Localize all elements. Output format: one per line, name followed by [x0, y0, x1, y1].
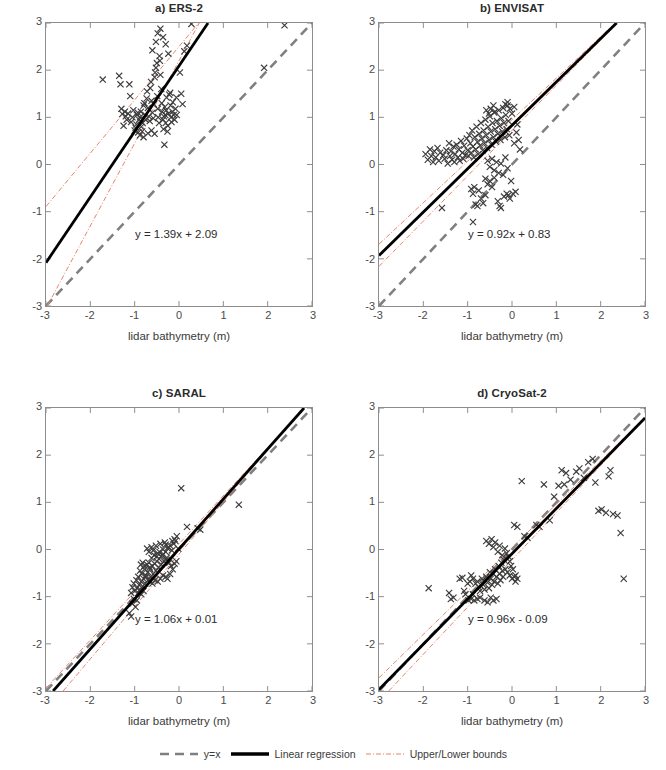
data-point [160, 34, 166, 40]
x-tick-label: 1 [545, 695, 569, 706]
x-tick-label: 1 [212, 695, 236, 706]
data-point [426, 585, 432, 591]
scatter-plot-svg [379, 408, 645, 691]
data-point [147, 85, 153, 91]
data-point [470, 219, 476, 225]
x-axis-label: lidar bathymetry (m) [378, 715, 646, 727]
data-point [512, 189, 518, 195]
regression-equation: y = 0.96x - 0.09 [468, 613, 548, 625]
panel-title: a) ERS-2 [45, 2, 313, 14]
y-tick-label: 1 [20, 111, 42, 122]
data-point [100, 77, 106, 83]
data-point [502, 154, 508, 160]
data-point [498, 160, 504, 166]
legend-swatch-dashed-icon [159, 748, 199, 760]
y-tick-label: 0 [353, 544, 375, 555]
regression-line [46, 23, 208, 263]
x-tick-label: -1 [122, 695, 146, 706]
data-point [618, 530, 624, 536]
y-tick-label: 3 [20, 16, 42, 27]
y-tick-label: 2 [353, 64, 375, 75]
x-tick-label: 0 [167, 695, 191, 706]
regression-line [53, 408, 304, 691]
data-point [450, 595, 456, 601]
y-tick-labels: 3210-1-2-3 [349, 407, 375, 692]
upper-bound-line [379, 417, 645, 677]
y-tick-label: -2 [353, 254, 375, 265]
data-point [481, 587, 487, 593]
data-point [178, 91, 184, 97]
legend-item: y=x [159, 748, 221, 760]
y-tick-label: 1 [353, 111, 375, 122]
scatter-plot-svg [46, 408, 312, 691]
x-tick-label: 3 [301, 695, 325, 706]
data-point [127, 93, 133, 99]
data-point [184, 43, 190, 49]
data-point [236, 502, 242, 508]
y-tick-labels: 3210-1-2-3 [16, 407, 42, 692]
y-tick-label: 3 [353, 16, 375, 27]
scatter-plot-svg [46, 23, 312, 306]
data-point [148, 79, 154, 85]
x-tick-label: -1 [455, 310, 479, 321]
x-tick-labels: -3-2-10123 [378, 310, 646, 328]
x-tick-label: -3 [366, 310, 390, 321]
x-tick-label: 2 [589, 310, 613, 321]
data-point [483, 107, 489, 113]
y-tick-label: 0 [20, 159, 42, 170]
data-point [157, 58, 163, 64]
data-point [281, 23, 287, 28]
data-point [478, 120, 484, 126]
x-axis-label: lidar bathymetry (m) [45, 330, 313, 342]
figure-legend: y=xLinear regressionUpper/Lower bounds [0, 742, 666, 766]
data-point [541, 481, 547, 487]
y-tick-label: 2 [20, 449, 42, 460]
data-point [170, 99, 176, 105]
data-point [126, 81, 132, 87]
data-point [603, 510, 609, 516]
data-point [512, 578, 518, 584]
data-point [498, 205, 504, 211]
data-point [606, 473, 612, 479]
data-point [590, 456, 596, 462]
regression-line [379, 418, 645, 690]
y-tick-label: 0 [20, 544, 42, 555]
x-tick-label: -3 [33, 310, 57, 321]
x-tick-label: 1 [212, 310, 236, 321]
x-axis-label: lidar bathymetry (m) [378, 330, 646, 342]
data-point [610, 511, 616, 517]
data-point [508, 178, 514, 184]
data-point [585, 459, 591, 465]
data-point [446, 140, 452, 146]
data-point [163, 41, 169, 47]
legend-label: Linear regression [275, 748, 356, 760]
data-point [495, 549, 501, 555]
panel-c-saral: c) SARAL Bathymetry measured by altimetr… [0, 385, 333, 770]
data-point [555, 483, 561, 489]
regression-equation: y = 0.92x + 0.83 [468, 228, 550, 240]
data-point [179, 101, 185, 107]
data-point [487, 164, 493, 170]
y-tick-label: 3 [20, 401, 42, 412]
data-point-group [126, 485, 242, 619]
identity-line [379, 23, 645, 306]
data-point [188, 23, 194, 27]
x-tick-label: -1 [455, 695, 479, 706]
x-tick-label: 2 [256, 310, 280, 321]
data-point [173, 558, 179, 564]
x-tick-label: 0 [500, 310, 524, 321]
data-point-group [426, 456, 627, 606]
data-point [261, 65, 267, 71]
y-tick-label: 2 [353, 449, 375, 460]
data-point [493, 159, 499, 165]
data-point-group [100, 23, 288, 148]
data-point [503, 112, 509, 118]
data-point [482, 117, 488, 123]
y-tick-label: -2 [20, 254, 42, 265]
data-point [465, 580, 471, 586]
data-point [184, 524, 190, 530]
data-point [149, 47, 155, 53]
y-tick-label: -1 [353, 591, 375, 602]
x-tick-label: -2 [78, 695, 102, 706]
panel-a-ers2: a) ERS-2 Bathymetry measured by altimetr… [0, 0, 333, 385]
